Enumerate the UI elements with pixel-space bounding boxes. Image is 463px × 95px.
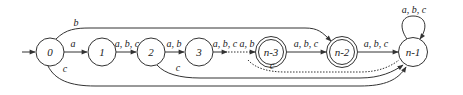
label-0-1: a [71,38,76,49]
state-1-label: 1 [99,46,105,58]
label-2-n1: c [176,62,181,73]
label-0-n2: b [74,17,79,28]
state-0-label: 0 [47,46,53,58]
label-3-dots: a, b, c [213,38,238,49]
label-dots-n3: a, b [240,38,255,49]
state-2-label: 2 [148,46,154,58]
state-n-1-label: n-1 [406,46,421,58]
state-n-3-label: n-3 [264,46,279,58]
label-dots-n1: c [270,60,275,71]
label-0-n1: c [63,63,68,74]
edge-labels: a a, b, c a, b a, b, c a, b a, b, c a, b… [63,4,427,74]
state-n-2-label: n-2 [335,46,350,58]
edge-n1-self-loop [402,16,425,39]
automaton-diagram: 0 1 2 3 n-3 n-2 n-1 a a, b, c a, b a, b,… [0,0,463,95]
label-1-2: a, b, c [115,38,140,49]
edge-0-n1-c [48,66,406,86]
label-n3-n2: a, b, c [294,38,319,49]
label-2-3: a, b [167,38,182,49]
label-n2-n1: a, b, c [364,38,389,49]
state-3-label: 3 [195,46,202,58]
label-n1-self: a, b, c [402,4,427,15]
